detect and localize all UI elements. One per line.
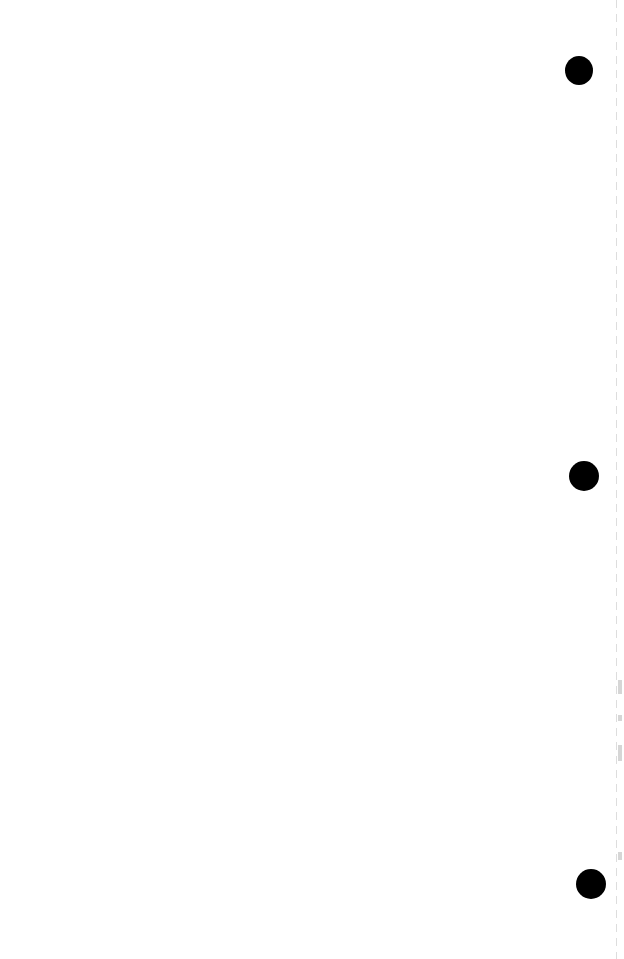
page-edge: [616, 0, 617, 959]
scan-artifact: [618, 715, 622, 721]
punch-hole-bottom: [576, 869, 606, 899]
scan-artifact: [618, 852, 622, 860]
punch-hole-middle: [569, 461, 599, 491]
scan-artifact: [618, 745, 622, 761]
scan-artifact: [618, 680, 622, 694]
punch-hole-top: [565, 56, 593, 85]
